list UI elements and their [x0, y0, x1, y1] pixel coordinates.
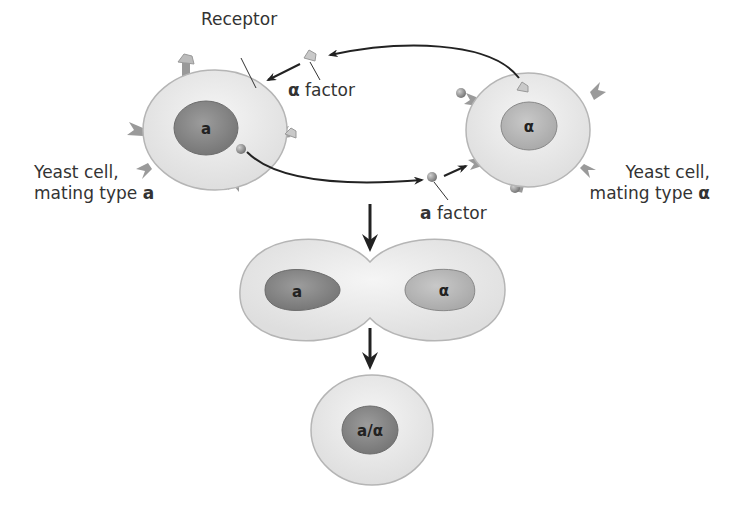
cell-alpha-caption-prefix: mating type	[590, 183, 699, 203]
a-symbol: a	[420, 203, 431, 223]
cell-alpha-type: α	[698, 183, 710, 203]
fused-cell: a α	[240, 239, 505, 341]
receptor-label: Receptor	[201, 9, 277, 30]
alpha-factor-label: α factor	[288, 80, 355, 101]
yeast-mating-diagram: a α	[0, 0, 734, 511]
cell-a-type: a	[143, 183, 154, 203]
cell-alpha-caption-line1: Yeast cell,	[565, 162, 710, 183]
alpha-symbol: α	[288, 80, 300, 100]
nucleus-a-label: a	[201, 120, 211, 138]
cell-a-caption-line2: mating type a	[34, 183, 154, 204]
cell-alpha-caption-line2: mating type α	[565, 183, 710, 204]
cell-a-caption: Yeast cell, mating type a	[34, 162, 154, 204]
cell-a-caption-line1: Yeast cell,	[34, 162, 154, 183]
a-factor-label: a factor	[420, 203, 487, 224]
alpha-factor-text: factor	[300, 80, 355, 100]
fused-nucleus-alpha-label: α	[439, 282, 449, 300]
nucleus-alpha-label: α	[524, 118, 534, 136]
a-factor-text: factor	[431, 203, 486, 223]
diploid-nucleus-label: a/α	[357, 422, 383, 440]
diploid-cell: a/α	[311, 375, 433, 485]
fused-nucleus-a-label: a	[292, 283, 302, 301]
cell-alpha-caption: Yeast cell, mating type α	[565, 162, 710, 204]
cell-a-caption-prefix: mating type	[34, 183, 143, 203]
